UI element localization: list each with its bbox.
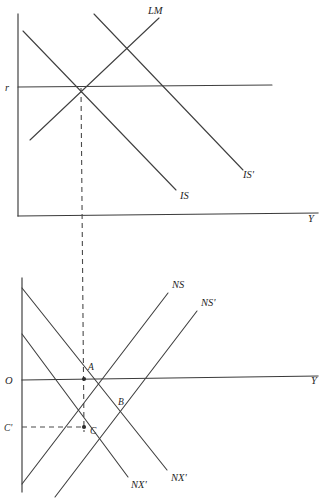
lower-origin-label: O — [5, 375, 13, 386]
lm-curve — [30, 18, 159, 140]
is-curve — [23, 31, 176, 190]
lower-panel: NS NS' NX' NX' A B C C' O Y — [4, 278, 318, 497]
point-C-prime-label: C' — [4, 423, 13, 433]
point-A-dot — [82, 377, 86, 381]
ns-prime-curve — [55, 311, 197, 497]
lower-x-axis-label: Y — [311, 375, 318, 386]
is-prime-curve-label: IS' — [242, 169, 255, 180]
upper-y-axis-label: r — [5, 82, 10, 93]
lower-x-axis — [22, 376, 318, 380]
world-interest-rate-line — [18, 85, 272, 87]
nx-prime-curve-label: NX' — [170, 472, 187, 483]
is-curve-label: IS — [179, 190, 189, 201]
point-A-label: A — [87, 362, 94, 372]
point-C-label: C — [90, 426, 97, 436]
upper-x-axis-label: Y — [308, 213, 315, 224]
is-prime-curve — [94, 14, 243, 170]
upper-panel: LM IS IS' r Y — [5, 5, 318, 224]
ns-prime-curve-label: NS' — [200, 297, 216, 308]
lm-curve-label: LM — [147, 5, 164, 16]
upper-x-axis — [18, 213, 318, 216]
nx-curve — [22, 334, 128, 477]
point-B-label: B — [118, 397, 124, 407]
figure-canvas: LM IS IS' r Y — [0, 0, 333, 498]
economics-diagram: LM IS IS' r Y — [0, 0, 333, 498]
ns-curve-label: NS — [171, 279, 185, 290]
ns-curve — [22, 293, 168, 484]
point-C-dot — [82, 425, 86, 429]
nx-curve-label: NX' — [130, 479, 147, 490]
